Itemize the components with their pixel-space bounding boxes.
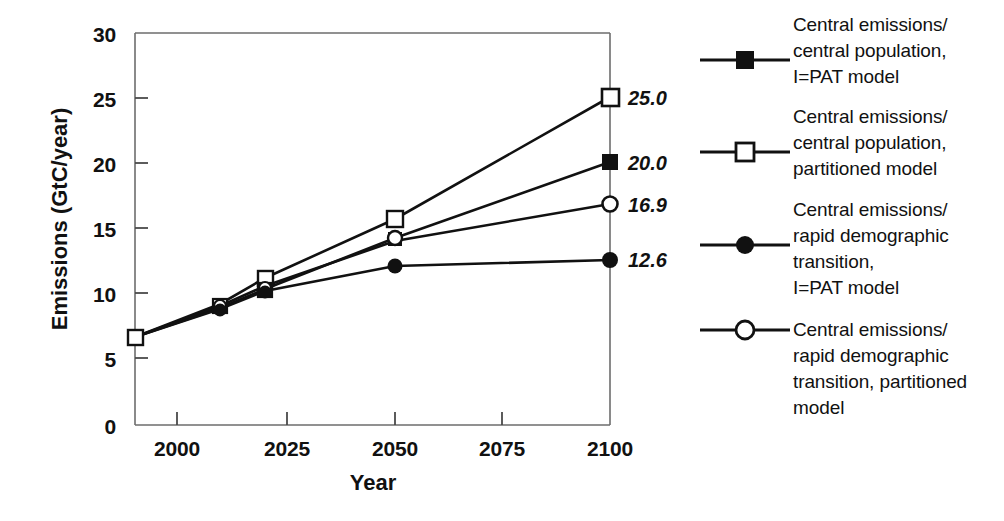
legend-item-label: Central emissions/ rapid demographic tra…: [793, 197, 999, 301]
marker-open-circle: [603, 197, 618, 212]
legend-item-label: Central emissions/ rapid demographic tra…: [793, 317, 999, 421]
legend-item-label: Central emissions/ central population, p…: [793, 104, 999, 182]
y-axis-title: Emissions (GtC/year): [47, 64, 73, 374]
y-axis-ticks: [135, 98, 148, 358]
x-tick-label-2025: 2025: [232, 438, 342, 459]
marker-filled-square: [602, 154, 618, 170]
y-tick-label-30: 30: [64, 24, 116, 45]
chart-legend: Central emissions/ central population, I…: [697, 0, 1004, 460]
marker-filled-circle: [602, 252, 618, 268]
marker-open-square: [387, 211, 403, 227]
x-tick-label-2075: 2075: [447, 438, 557, 459]
marker-open-square: [602, 89, 619, 106]
x-axis-ticks: [177, 412, 502, 425]
x-axis-title: Year: [268, 470, 478, 496]
marker-open-circle: [388, 231, 402, 245]
series-line-rapid-ipat: [135, 260, 610, 337]
legend-item-label: Central emissions/ central population, I…: [793, 12, 999, 90]
marker-cluster-2020: [258, 271, 273, 299]
endpoint-label-12-6: 12.6: [628, 249, 667, 272]
x-tick-label-2100: 2100: [555, 438, 665, 459]
marker-open-square: [128, 330, 143, 345]
series-lines: [135, 97, 610, 337]
marker-cluster-2010: [213, 299, 228, 317]
endpoint-label-20: 20.0: [628, 152, 667, 175]
y-tick-label-0: 0: [64, 416, 116, 437]
emissions-projection-figure: 30 25 20 15 10 5 0 2000 2025 2050 2075 2…: [0, 0, 1004, 521]
marker-filled-circle: [388, 259, 403, 274]
endpoint-label-25: 25.0: [628, 87, 667, 110]
marker-cluster-2050: [387, 211, 403, 274]
endpoint-label-16-9: 16.9: [628, 194, 667, 217]
x-tick-label-2000: 2000: [122, 438, 232, 459]
x-tick-label-2050: 2050: [340, 438, 450, 459]
